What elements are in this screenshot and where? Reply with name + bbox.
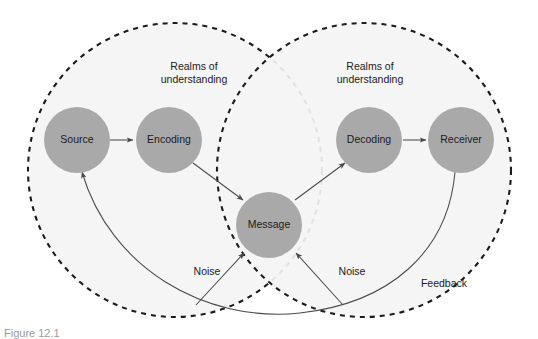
noise-left-label: Noise — [194, 265, 221, 277]
realm-left-label-line1: Realms of — [170, 60, 217, 72]
realm-right-label-line1: Realms of — [346, 60, 393, 72]
node-encoding[interactable]: Encoding — [136, 107, 202, 173]
communication-model-diagram: Realms of understanding Realms of unders… — [0, 0, 538, 339]
realm-left-label: Realms of understanding — [161, 60, 228, 85]
noise-right-label: Noise — [339, 265, 366, 277]
realms-group — [28, 23, 511, 317]
node-message[interactable]: Message — [236, 192, 302, 258]
figure-container: Realms of understanding Realms of unders… — [0, 0, 538, 339]
realm-left-label-line2: understanding — [161, 73, 228, 85]
feedback-label: Feedback — [421, 277, 468, 289]
encoding-label: Encoding — [147, 133, 191, 145]
message-label: Message — [248, 218, 291, 230]
node-source[interactable]: Source — [44, 107, 110, 173]
receiver-label: Receiver — [440, 133, 482, 145]
figure-caption: Figure 12.1 — [4, 327, 60, 339]
source-label: Source — [60, 133, 93, 145]
realm-right-label: Realms of understanding — [337, 60, 404, 85]
node-decoding[interactable]: Decoding — [336, 107, 402, 173]
realm-right-label-line2: understanding — [337, 73, 404, 85]
node-receiver[interactable]: Receiver — [428, 107, 494, 173]
decoding-label: Decoding — [347, 133, 392, 145]
